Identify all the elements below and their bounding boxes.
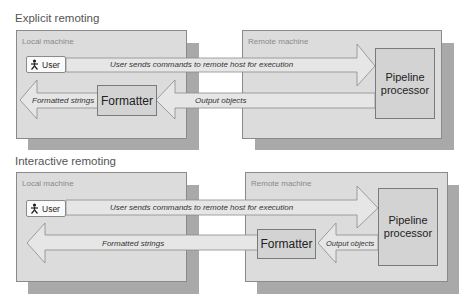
output-objects-label-2: Output objects [326,239,374,248]
formatted-strings-label-2: Formatted strings [102,239,164,248]
interactive-arrows [0,0,472,306]
user-label-2: User [42,204,60,214]
command-arrow-label-2: User sends commands to remote host for e… [110,203,293,212]
user-stick-figure-icon-2 [30,203,39,214]
formatter-label-2: Formatter [260,237,312,251]
user-box-2: User [26,200,66,217]
formatter-box-2: Formatter [257,229,316,259]
